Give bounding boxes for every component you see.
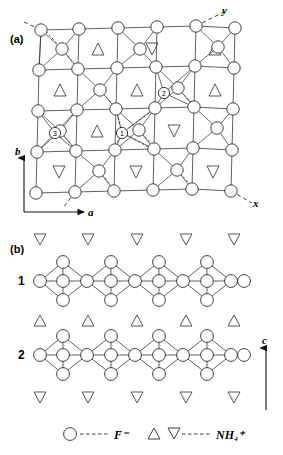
- legend-label-ammonium: NH₄⁺: [215, 428, 246, 442]
- site-marker-2-label: 2: [162, 90, 166, 97]
- site-marker-1-label: 1: [120, 130, 124, 137]
- legend-label-fluoride: F⁻: [113, 428, 130, 442]
- legend-triangle-down-icon: [168, 428, 180, 439]
- site-marker-3: 3: [49, 127, 60, 138]
- figure-container: (a): [0, 0, 283, 455]
- site-marker-3-label: 3: [53, 130, 57, 137]
- axis-label-a: a: [88, 206, 94, 218]
- legend-item-fluoride: F⁻: [64, 428, 130, 442]
- legend: F⁻ NH₄⁺: [64, 428, 247, 442]
- panel-a: (a): [10, 4, 259, 218]
- panel-b-label: (b): [10, 243, 24, 255]
- panel-b-triangles-row-middle: [34, 315, 240, 326]
- legend-triangle-up-icon: [148, 428, 160, 439]
- panel-b-row-label-1: 1: [18, 274, 25, 288]
- axis-label-x: x: [252, 197, 259, 209]
- crystal-structure-figure: (a): [0, 0, 283, 455]
- panel-b: (b) 1: [10, 234, 267, 410]
- axis-label-c: c: [262, 334, 267, 346]
- legend-circle-icon: [64, 428, 77, 441]
- axis-label-y: y: [220, 4, 227, 16]
- panel-b-triangles-row-top: [34, 234, 240, 245]
- legend-item-ammonium: NH₄⁺: [148, 428, 246, 442]
- axis-label-b: b: [15, 145, 21, 157]
- panel-b-triangles-row-bottom: [34, 392, 240, 403]
- site-marker-2: 2: [158, 87, 169, 98]
- site-marker-1: 1: [116, 127, 127, 138]
- panel-a-label: (a): [10, 33, 24, 45]
- panel-b-row-label-2: 2: [18, 348, 25, 362]
